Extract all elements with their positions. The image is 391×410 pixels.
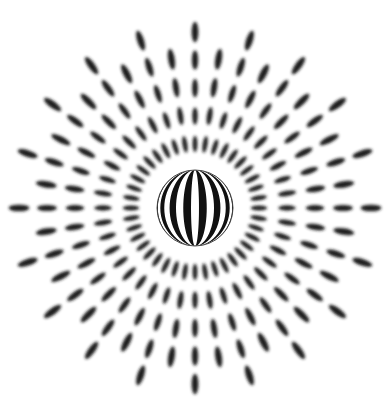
ray-dash (258, 102, 274, 120)
ray-dash (65, 287, 85, 304)
ray-dash (231, 116, 244, 135)
ray-dash (100, 78, 117, 98)
ray-dash (269, 244, 288, 257)
ray-dash (133, 89, 147, 109)
ray-dash (233, 155, 248, 170)
ray-dash (170, 260, 180, 277)
ray-dash (134, 30, 147, 52)
ray-dash (176, 291, 184, 310)
ray-dash (192, 374, 199, 395)
ray-dash (327, 303, 348, 321)
ray-dash (210, 260, 220, 277)
ray-dash (121, 265, 138, 282)
ray-dash (112, 147, 129, 162)
ray-dash (100, 318, 117, 338)
ray-dash (142, 246, 157, 261)
ray-dash (233, 246, 248, 261)
ray-dash (42, 303, 63, 321)
ray-dash (258, 296, 274, 314)
ray-dash (247, 183, 264, 193)
ray-dash (100, 285, 118, 303)
ray-dash (192, 79, 198, 98)
ray-dash (299, 239, 318, 250)
ray-dash (318, 269, 340, 284)
ray-dash (192, 22, 199, 43)
ray-dash (273, 174, 291, 184)
ray-dash (226, 252, 240, 268)
ray-dash (272, 113, 290, 131)
ray-dash (325, 248, 346, 260)
ray-dash (64, 223, 84, 232)
ray-dash (292, 92, 312, 112)
ray-dash (126, 183, 143, 193)
ray-dash (151, 252, 165, 268)
ray-dash (134, 125, 149, 142)
ray-dash (235, 338, 247, 359)
ray-dash (89, 130, 107, 146)
ray-dash (243, 89, 257, 109)
ray-dash (205, 291, 213, 310)
ray-dash (98, 174, 116, 184)
ray-dash (293, 256, 313, 270)
ray-dash (272, 285, 290, 303)
ray-dash (35, 180, 57, 190)
ray-dash (133, 306, 147, 326)
ray-dash (305, 113, 325, 130)
ray-dash (76, 256, 96, 270)
ray-dash (214, 48, 224, 70)
ray-dash (143, 338, 155, 359)
ray-dash (214, 346, 224, 368)
ray-dash (117, 102, 133, 120)
ray-dash (218, 257, 230, 274)
ray-dash (119, 63, 134, 85)
ray-dash (193, 136, 198, 152)
ray-dash (250, 194, 267, 201)
ray-dash (117, 296, 133, 314)
ray-dash (274, 318, 291, 338)
ray-dash (103, 159, 122, 172)
ray-dash (121, 134, 138, 151)
ray-dash (261, 147, 278, 162)
ray-dash (226, 312, 237, 331)
ray-dash (305, 287, 325, 304)
ray-dash (252, 265, 269, 282)
ray-dash (293, 146, 313, 160)
ray-dash (292, 305, 312, 325)
striped-sphere (157, 170, 233, 246)
ray-dash (134, 364, 147, 386)
ray-dash (135, 239, 151, 253)
ray-dash (66, 205, 85, 211)
ray-dash (181, 263, 188, 280)
ray-dash (261, 255, 278, 270)
ray-dash (123, 214, 140, 221)
ray-dash (167, 346, 177, 368)
ray-dash (181, 136, 188, 153)
ray-dash (42, 96, 63, 114)
ray-dash (243, 364, 256, 386)
ray-dash (37, 205, 57, 211)
ray-dash (333, 227, 355, 237)
ray-dash (251, 206, 267, 211)
ray-dash (299, 165, 318, 176)
ray-dash (160, 142, 172, 159)
ray-dash (143, 57, 155, 78)
ray-dash (123, 194, 140, 201)
ray-dash (244, 231, 261, 243)
ray-dash (176, 107, 184, 126)
ray-dash (65, 113, 85, 130)
ray-dash (129, 173, 146, 185)
ray-dash (152, 312, 163, 331)
ray-dash (243, 306, 257, 326)
ray-dash (201, 136, 208, 153)
ray-dash (98, 231, 116, 241)
ray-dash (151, 148, 165, 164)
ray-dash (333, 180, 355, 190)
ray-dash (142, 155, 157, 170)
ray-dash (126, 223, 143, 233)
ray-dash (278, 189, 297, 197)
ray-dash (17, 256, 39, 269)
ray-dash (247, 223, 264, 233)
ray-dash (290, 55, 308, 76)
ray-dash (242, 125, 257, 142)
ray-dash (252, 134, 269, 151)
